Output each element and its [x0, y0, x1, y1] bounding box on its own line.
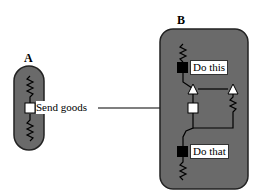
- do-this-label: Do this: [190, 60, 228, 75]
- do-that-node: [177, 146, 188, 157]
- do-this-node: [177, 62, 188, 73]
- diagram-canvas: [0, 0, 268, 196]
- send-goods-label: Send goods: [36, 101, 87, 114]
- center-open-node: [188, 103, 198, 113]
- panel-b-label: B: [177, 13, 185, 28]
- do-that-label: Do that: [190, 144, 229, 159]
- panel-a-label: A: [24, 51, 33, 66]
- send-goods-node: [25, 103, 35, 113]
